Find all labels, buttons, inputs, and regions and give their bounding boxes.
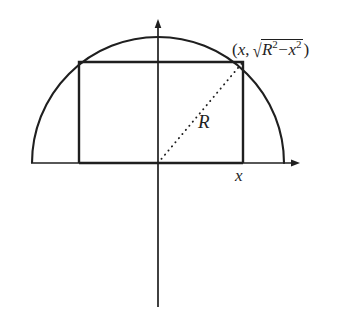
radius-label: R — [198, 112, 210, 131]
radicand-R: R — [262, 40, 272, 59]
point-comma: , — [245, 40, 249, 59]
radical-sign-icon: √ — [253, 41, 262, 60]
radicand: R2−x2 — [261, 39, 304, 58]
radicand-x: x — [288, 40, 296, 59]
point-close-paren: ) — [303, 40, 309, 59]
radicand-minus-sign: − — [278, 40, 289, 59]
figure-canvas: (x,√R2−x2) R x — [0, 0, 343, 320]
radicand-R-exponent: 2 — [272, 38, 278, 50]
square-root-expression: √R2−x2 — [251, 39, 303, 60]
inscribed-rectangle — [79, 62, 243, 163]
point-coordinate-label: (x,√R2−x2) — [232, 39, 309, 60]
radicand-x-exponent: 2 — [296, 38, 302, 50]
x-axis-tick-label: x — [235, 167, 243, 184]
